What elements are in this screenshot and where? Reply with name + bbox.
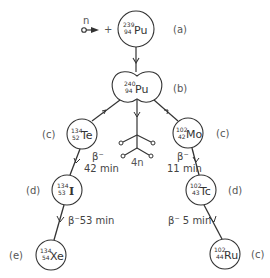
decay-label: β⁻53 min [68, 215, 114, 226]
decay-label: β⁻ 5 min [168, 215, 211, 226]
atomic-number: 53 [58, 189, 66, 196]
mass-number: 134 [57, 182, 69, 189]
nucleus-i134: 134 53 I (d) [26, 175, 82, 205]
element-symbol: I [69, 185, 74, 198]
atomic-number: 44 [216, 253, 224, 260]
decay-type: β⁻ [92, 151, 104, 162]
nucleus-tc102: 102 43 Tc (d) [186, 175, 242, 205]
neutron-arrow-icon [91, 27, 99, 33]
atomic-number: 94 [125, 87, 133, 94]
plus-sign: + [104, 24, 112, 35]
half-life: 42 min [84, 163, 119, 174]
neutron-icon [119, 141, 123, 145]
decay-arrow-i-xe [54, 205, 64, 240]
decay-arrow-te-i [70, 149, 80, 175]
stage-label: (b) [173, 83, 187, 94]
atomic-number: 52 [72, 134, 80, 141]
nucleus-ru102: 102 44 Ru (c) [210, 239, 264, 269]
element-symbol: Xe [50, 250, 64, 263]
incoming-neutron: n + [82, 15, 113, 35]
atomic-number: 42 [178, 133, 186, 140]
element-symbol: Tc [199, 185, 211, 198]
nucleus-xe134: 134 54 Xe (e) [9, 240, 66, 270]
atomic-number: 54 [42, 254, 50, 261]
element-symbol: Pu [135, 83, 148, 96]
nucleus-mo102: 102 42 Mo (c) [173, 118, 229, 148]
half-life: 11 min [167, 163, 202, 174]
element-symbol: Pu [134, 24, 147, 37]
stage-label: (c) [216, 128, 229, 139]
stage-label: (d) [26, 185, 40, 196]
atomic-number: 94 [124, 28, 132, 35]
stage-label: (a) [173, 24, 187, 35]
mass-number: 240 [124, 80, 136, 87]
element-symbol: Ru [224, 249, 238, 262]
element-symbol: Te [80, 129, 93, 142]
nucleus-te134: 134 52 Te (c) [42, 119, 97, 149]
stage-label: (c) [251, 249, 264, 260]
fission-diagram: n + 239 94 Pu (a) 240 94 Pu (b) 4 [0, 0, 270, 278]
nucleus-pu240: 240 94 Pu (b) [112, 72, 187, 103]
neutron-count-label: 4n [131, 157, 144, 168]
neutron-label: n [83, 15, 89, 26]
neutron-icon [82, 28, 87, 33]
neutron-icon [121, 154, 125, 158]
stage-label: (c) [42, 129, 55, 140]
neutron-icon [149, 154, 153, 158]
element-symbol: Mo [186, 128, 202, 141]
stage-label: (d) [228, 185, 242, 196]
decay-type: β⁻ [177, 151, 189, 162]
nucleus-pu239: 239 94 Pu (a) [118, 11, 187, 47]
mass-number: 239 [123, 21, 135, 28]
atomic-number: 43 [192, 189, 200, 196]
neutron-icon [151, 141, 155, 145]
stage-label: (e) [9, 250, 23, 261]
